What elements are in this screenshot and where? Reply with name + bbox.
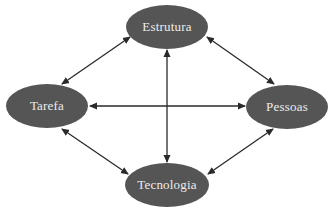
node-pessoas-label: Pessoas	[266, 99, 308, 115]
arrow-pessoas-tecnologia	[208, 129, 273, 174]
node-tecnologia: Tecnologia	[125, 163, 209, 207]
arrow-tarefa-tecnologia	[62, 129, 128, 174]
node-estrutura: Estrutura	[126, 5, 208, 49]
node-tarefa: Tarefa	[6, 84, 88, 128]
arrow-estrutura-tarefa	[62, 37, 130, 84]
arrow-estrutura-pessoas	[207, 37, 274, 84]
node-estrutura-label: Estrutura	[142, 19, 191, 35]
node-tecnologia-label: Tecnologia	[137, 177, 197, 193]
node-tarefa-label: Tarefa	[30, 98, 64, 114]
node-pessoas: Pessoas	[246, 85, 328, 129]
leavitt-diamond-diagram: Estrutura Tarefa Pessoas Tecnologia	[0, 0, 336, 212]
